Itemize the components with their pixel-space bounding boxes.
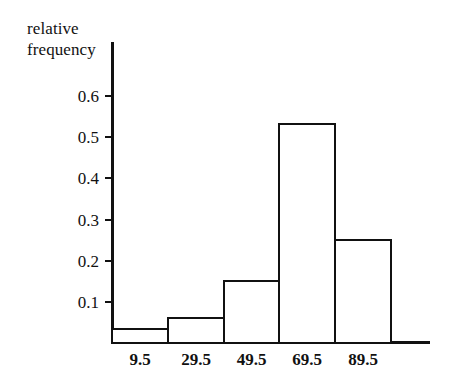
y-axis-line [111,42,114,344]
plot-area: 0.6 0.5 0.4 0.3 0.2 0.1 9.5 29.5 49.5 69… [0,0,459,382]
y-tick-label-0.1: 0.1 [29,294,99,311]
histogram-bar-1 [111,328,169,342]
histogram-bar-4 [278,123,336,342]
y-tick-label-0.5: 0.5 [29,129,99,146]
x-tick-label-4: 69.5 [278,350,336,369]
histogram-bar-5 [334,239,392,342]
histogram-figure: relative frequency 0.6 0.5 0.4 0.3 0.2 0… [0,0,459,382]
y-tick-mark-0.6 [105,95,112,97]
x-tick-label-2: 29.5 [167,350,225,369]
y-tick-mark-0.2 [105,260,112,262]
y-tick-mark-0.4 [105,177,112,179]
x-tick-label-3: 49.5 [223,350,280,369]
y-tick-mark-0.1 [105,301,112,303]
histogram-bar-3 [223,280,280,342]
histogram-bar-2 [167,317,225,342]
y-tick-mark-0.5 [105,136,112,138]
x-tick-label-5: 89.5 [334,350,392,369]
x-tick-label-1: 9.5 [111,350,169,369]
y-tick-label-0.3: 0.3 [29,212,99,229]
y-tick-label-0.4: 0.4 [29,170,99,187]
y-tick-label-0.2: 0.2 [29,253,99,270]
y-tick-mark-0.3 [105,219,112,221]
y-tick-label-0.6: 0.6 [29,88,99,105]
